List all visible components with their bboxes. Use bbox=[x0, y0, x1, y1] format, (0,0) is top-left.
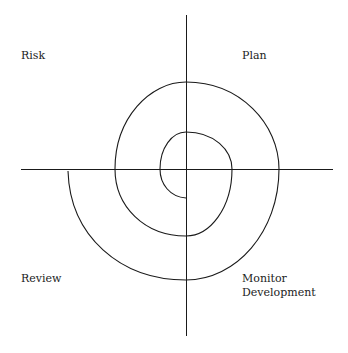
spiral-curve bbox=[68, 82, 279, 280]
spiral-diagram bbox=[0, 0, 348, 353]
quadrant-label-plan: Plan bbox=[242, 49, 267, 62]
quadrant-label-monitor: Monitor bbox=[242, 272, 287, 285]
quadrant-label-review: Review bbox=[21, 272, 61, 285]
quadrant-label-risk: Risk bbox=[21, 49, 45, 62]
quadrant-label-development: Development bbox=[242, 286, 316, 299]
